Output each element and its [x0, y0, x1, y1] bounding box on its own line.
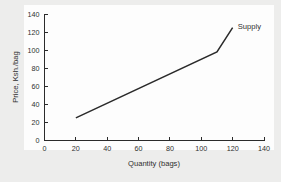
x-tick-label: 20: [72, 144, 80, 153]
y-tick-label: 80: [32, 64, 40, 73]
x-tick-label: 40: [103, 144, 111, 153]
x-axis-tick-labels: 020406080100120140: [43, 144, 271, 153]
y-tick-label: 120: [28, 28, 40, 37]
y-axis: [45, 14, 49, 141]
x-tick-label: 100: [195, 144, 207, 153]
y-tick-label: 40: [32, 100, 40, 109]
data-series-group: [76, 28, 233, 118]
series-annotations: Supply: [238, 22, 261, 31]
x-tick-label: 60: [135, 144, 143, 153]
y-tick-label: 20: [32, 118, 40, 127]
x-tick-label: 120: [227, 144, 239, 153]
chart-canvas: 020406080100120140 020406080100120140 Qu…: [0, 0, 281, 182]
x-axis-title: Quantity (bags): [128, 159, 180, 168]
supply-label: Supply: [238, 22, 261, 31]
y-tick-label: 60: [32, 82, 40, 91]
x-tick-label: 0: [43, 144, 47, 153]
y-axis-tick-labels: 020406080100120140: [28, 10, 40, 146]
y-tick-label: 0: [36, 136, 40, 145]
x-tick-label: 80: [166, 144, 174, 153]
x-tick-label: 140: [258, 144, 270, 153]
y-axis-title: Price, Ksh./bag: [11, 51, 20, 103]
y-tick-label: 140: [28, 10, 40, 19]
y-tick-label: 100: [28, 46, 40, 55]
x-axis: [45, 137, 265, 141]
chart-figure: 020406080100120140 020406080100120140 Qu…: [0, 0, 281, 182]
supply-curve-line: [76, 28, 233, 118]
